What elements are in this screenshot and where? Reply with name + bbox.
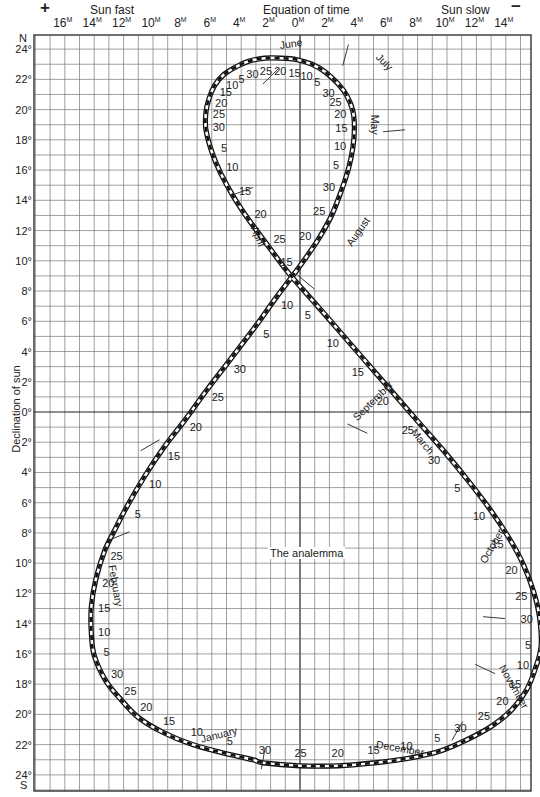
day-label: 15 [288, 67, 300, 79]
day-label: 5 [104, 646, 110, 658]
day-label: 25 [478, 710, 490, 722]
x-tick-label: 14M [494, 16, 513, 30]
north-label: N [19, 32, 27, 44]
day-label: 15 [168, 450, 180, 462]
day-label: 25 [213, 108, 225, 120]
y-tick-label: 10° [15, 255, 32, 267]
day-label: 5 [434, 732, 440, 744]
month-label: May [369, 115, 381, 136]
day-label: 10 [473, 510, 485, 522]
month-boundary-tick [141, 440, 160, 451]
y-tick-label: 20° [15, 708, 32, 720]
day-label: 30 [521, 613, 533, 625]
day-label: 20 [274, 65, 286, 77]
month-label: January [199, 724, 239, 745]
y-tick-label: 8° [21, 527, 32, 539]
day-label: 30 [322, 87, 334, 99]
day-label: 30 [323, 181, 335, 193]
day-label: 25 [273, 233, 285, 245]
day-label: 5 [263, 328, 269, 340]
y-tick-label: 22° [15, 73, 32, 85]
day-label: 10 [334, 140, 346, 152]
day-label: 5 [221, 142, 227, 154]
y-tick-label: 24° [15, 43, 32, 55]
sun-slow-label: Sun slow [441, 3, 490, 17]
day-label: 30 [259, 744, 271, 756]
y-tick-label: 6° [21, 315, 32, 327]
analemma-curve [91, 45, 540, 770]
day-label: 5 [525, 639, 531, 651]
day-label: 15 [239, 185, 251, 197]
day-label: 15 [98, 602, 110, 614]
day-label: 15 [163, 715, 175, 727]
day-label: 15 [335, 122, 347, 134]
month-label: April [249, 224, 268, 248]
day-label: 20 [254, 208, 266, 220]
y-tick-label: 4° [21, 466, 32, 478]
day-label: 20 [190, 421, 202, 433]
day-label: 10 [300, 70, 312, 82]
y-tick-label: 14° [15, 194, 32, 206]
day-label: 20 [496, 695, 508, 707]
analemma-chart: 16M14M12M10M8M6M4M2M0M2M4M6M8M10M12M14M2… [0, 0, 540, 797]
day-label: 25 [515, 590, 527, 602]
day-label: 20 [505, 564, 517, 576]
day-label: 5 [305, 309, 311, 321]
y-tick-label: 12° [15, 587, 32, 599]
day-label: 15 [280, 256, 292, 268]
x-tick-label: 12M [465, 16, 484, 30]
day-label: 10 [281, 299, 293, 311]
x-tick-label: 14M [83, 16, 102, 30]
month-boundary-tick [483, 617, 505, 619]
month-label: July [374, 51, 396, 73]
x-tick-label: 2M [262, 16, 275, 30]
month-label: August [344, 214, 373, 248]
x-tick-label: 12M [112, 16, 131, 30]
y-tick-label: 18° [15, 134, 32, 146]
x-tick-label: 8M [174, 16, 187, 30]
day-label: 10 [226, 161, 238, 173]
day-label: 20 [334, 108, 346, 120]
south-label: S [20, 779, 27, 791]
day-label: 10 [149, 478, 161, 490]
plus-sign: + [40, 0, 50, 18]
y-tick-label: 4° [21, 346, 32, 358]
x-tick-label: 2M [321, 16, 334, 30]
x-tick-label: 16M [53, 16, 72, 30]
month-boundary-tick [347, 424, 367, 433]
day-label: 30 [428, 454, 440, 466]
x-tick-label: 10M [141, 16, 160, 30]
x-tick-label: 10M [435, 16, 454, 30]
x-tick-label: 8M [409, 16, 422, 30]
y-tick-label: 20° [15, 104, 32, 116]
day-label: 10 [98, 626, 110, 638]
day-label: 30 [213, 121, 225, 133]
day-label: 25 [260, 65, 272, 77]
day-label: 25 [110, 550, 122, 562]
y-tick-label: 2° [21, 436, 32, 448]
day-label: 10 [517, 659, 529, 671]
sun-fast-label: Sun fast [90, 3, 134, 17]
y-tick-label: 0° [21, 406, 32, 418]
y-tick-label: 16° [15, 648, 32, 660]
day-label: 30 [454, 722, 466, 734]
y-tick-label: 10° [15, 557, 32, 569]
x-tick-label: 4M [233, 16, 246, 30]
day-label: 10 [327, 337, 339, 349]
chart-grid [34, 35, 531, 791]
day-label: 5 [238, 73, 244, 85]
day-label: 25 [212, 391, 224, 403]
day-label: 5 [135, 508, 141, 520]
day-label: 15 [352, 366, 364, 378]
x-tick-label: 6M [380, 16, 393, 30]
day-label: 30 [234, 363, 246, 375]
y-tick-label: 14° [15, 618, 32, 630]
month-boundary-tick [343, 45, 349, 66]
day-label: 5 [314, 76, 320, 88]
equation-of-time-title: Equation of time [263, 3, 350, 17]
y-tick-label: 22° [15, 739, 32, 751]
chart-title: The analemma [268, 547, 345, 559]
day-label: 30 [111, 668, 123, 680]
day-label: 25 [294, 747, 306, 759]
day-label: 30 [246, 68, 258, 80]
